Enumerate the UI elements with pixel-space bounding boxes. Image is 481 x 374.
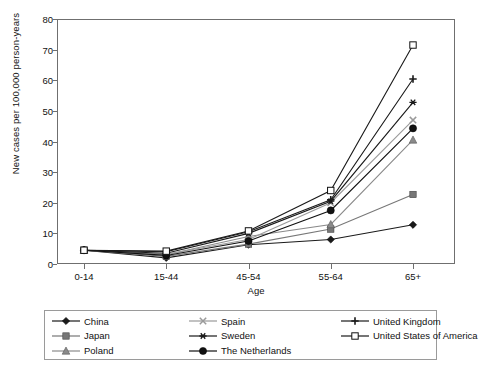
legend-label: Sweden — [221, 331, 255, 341]
legend-label: China — [84, 317, 109, 327]
data-point-plus — [351, 318, 358, 325]
y-tick-mark — [53, 19, 57, 20]
x-tick-mark — [331, 264, 332, 269]
legend-marker-cross-x-icon — [188, 315, 218, 327]
y-tick-label: 0 — [0, 259, 53, 270]
y-tick-mark — [53, 233, 57, 234]
legend-entry[interactable]: Poland — [51, 345, 188, 357]
x-tick-label: 45-54 — [214, 271, 284, 282]
legend-entry[interactable]: United States of America — [340, 330, 478, 342]
legend-marker-filled-circle-icon — [188, 345, 218, 357]
y-tick-mark — [53, 80, 57, 81]
legend-label: United Kingdom — [373, 317, 441, 327]
y-tick-label: 40 — [0, 136, 53, 147]
legend-marker-filled-triangle-icon — [51, 345, 81, 357]
legend-entry[interactable]: China — [51, 315, 188, 327]
x-tick-label: 55-64 — [296, 271, 366, 282]
y-tick-label: 70 — [0, 44, 53, 55]
y-tick-label: 80 — [0, 14, 53, 25]
y-tick-mark — [53, 264, 57, 265]
y-tick-mark — [53, 142, 57, 143]
x-tick-label: 0-14 — [49, 271, 119, 282]
x-axis-label: Age — [57, 285, 455, 296]
legend-marker-plus-icon — [340, 315, 370, 327]
data-point-asterisk — [199, 333, 206, 338]
legend-label: Japan — [84, 331, 110, 341]
y-tick-mark — [53, 172, 57, 173]
y-tick-mark — [53, 50, 57, 51]
x-tick-label: 15-44 — [131, 271, 201, 282]
legend-marker-asterisk-icon — [188, 330, 218, 342]
legend: ChinaSpainUnited KingdomJapanSwedenUnite… — [44, 310, 437, 360]
x-tick-mark — [413, 264, 414, 269]
y-tick-label: 30 — [0, 167, 53, 178]
x-tick-label: 65+ — [378, 271, 448, 282]
data-point-filled-square — [63, 333, 69, 339]
plot-area — [57, 19, 455, 264]
legend-marker-filled-square-icon — [51, 330, 81, 342]
y-tick-label: 20 — [0, 197, 53, 208]
x-tick-mark — [166, 264, 167, 269]
y-tick-label: 50 — [0, 105, 53, 116]
line-chart-figure: New cases per 100,000 person-years 01020… — [0, 0, 481, 374]
data-point-filled-diamond — [62, 318, 69, 325]
data-point-open-square — [352, 333, 358, 339]
legend-entry[interactable]: The Netherlands — [188, 345, 340, 357]
y-tick-mark — [53, 111, 57, 112]
y-tick-label: 60 — [0, 75, 53, 86]
y-tick-label: 10 — [0, 228, 53, 239]
legend-label: United States of America — [373, 331, 478, 341]
legend-label: Spain — [221, 317, 245, 327]
legend-marker-filled-diamond-icon — [51, 315, 81, 327]
legend-entry[interactable]: Spain — [188, 315, 340, 327]
legend-label: Poland — [84, 346, 114, 356]
legend-entry[interactable]: United Kingdom — [340, 315, 478, 327]
y-tick-mark — [53, 203, 57, 204]
x-tick-mark — [249, 264, 250, 269]
legend-entry[interactable]: Japan — [51, 330, 188, 342]
legend-marker-open-square-icon — [340, 330, 370, 342]
data-point-filled-circle — [199, 347, 206, 354]
legend-entry[interactable]: Sweden — [188, 330, 340, 342]
legend-label: The Netherlands — [221, 346, 291, 356]
x-tick-mark — [84, 264, 85, 269]
